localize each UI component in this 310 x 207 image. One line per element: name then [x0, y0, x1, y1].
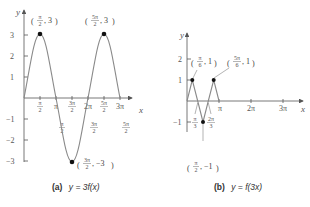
panel-b-y-label: y [179, 30, 184, 40]
panel-b-point-max-1 [190, 78, 194, 82]
panel-a-label-pi-2-3: ( π 2 , 3 ) [31, 14, 58, 27]
panel-b-xlow-pi-3: π 3 [192, 103, 198, 129]
svg-text:(: ( [191, 59, 194, 68]
panel-a-point-min [70, 160, 75, 165]
panel-a-xtick-3pi-2: 3π 2 [68, 100, 76, 113]
panel-a-y-label: y [15, 7, 20, 17]
panel-b: y x 2 1 −1 π 2π 3π π 3 2π [173, 30, 305, 192]
svg-text:3: 3 [194, 123, 197, 129]
panel-a-xlow-3pi-2: 3π 2 [90, 121, 98, 134]
svg-text:, −3: , −3 [92, 159, 105, 168]
svg-text:π: π [38, 100, 41, 106]
panel-b-leader-1 [193, 70, 197, 78]
svg-text:(: ( [85, 17, 88, 26]
panel-b-xtick-3pi: 3π [279, 104, 287, 113]
panel-b-y-ticks [187, 59, 191, 122]
panel-a-caption: (a) y = 3f(x) [52, 182, 100, 192]
svg-text:π: π [198, 55, 201, 61]
svg-text:3: 3 [210, 123, 213, 129]
panel-a-ytick-1: 1 [10, 73, 14, 82]
svg-text:2: 2 [86, 164, 89, 170]
svg-text:): ) [252, 59, 255, 68]
svg-text:π: π [38, 14, 41, 20]
svg-text:2: 2 [71, 107, 74, 113]
svg-text:, 1: , 1 [242, 57, 250, 66]
panel-a-point-max-1 [38, 32, 43, 37]
svg-text:π: π [194, 160, 197, 166]
svg-text:2π: 2π [208, 116, 214, 122]
panel-b-point-min [201, 120, 205, 124]
panel-a-xtick-pi-2: π 2 [37, 100, 43, 113]
panel-b-label-5pi-6-1: ( 5π 6 , 1 ) [227, 55, 255, 68]
panel-b-leader-2 [214, 68, 229, 78]
svg-text:3π: 3π [69, 100, 75, 106]
panel-b-point-max-2 [212, 78, 216, 82]
svg-text:(: ( [77, 161, 80, 170]
svg-text:2: 2 [195, 167, 198, 173]
svg-text:2: 2 [39, 107, 42, 113]
figure: y x 3 2 1 −1 −2 −3 π 2 [0, 0, 310, 207]
svg-text:5π: 5π [92, 14, 98, 20]
svg-text:2: 2 [94, 21, 97, 27]
svg-text:(: ( [227, 59, 230, 68]
svg-text:): ) [55, 17, 58, 26]
panel-b-xlow-2pi-3: 2π 3 [207, 103, 215, 129]
svg-text:): ) [216, 164, 219, 173]
panel-a-xtick-2pi: 2π [84, 102, 92, 111]
panel-a-xtick-5pi-2: 5π 2 [100, 100, 108, 113]
panel-a-label-5pi-2-3: ( 5π 2 , 3 ) [85, 14, 115, 27]
panel-b-xtick-pi: π [218, 104, 222, 113]
svg-text:π: π [193, 116, 196, 122]
svg-text:, 3: , 3 [44, 16, 52, 25]
panel-b-ytick-2: 2 [178, 55, 182, 64]
svg-text:2: 2 [93, 128, 96, 134]
svg-text:3π: 3π [91, 121, 97, 127]
svg-text:3π: 3π [84, 157, 90, 163]
svg-text:(: ( [187, 164, 190, 173]
panel-a-label-3pi-2-neg3: ( 3π 2 , −3 ) [77, 157, 114, 170]
svg-text:2: 2 [125, 128, 128, 134]
svg-text:, −1: , −1 [200, 162, 213, 171]
panel-b-caption: (b) y = f(3x) [214, 182, 262, 192]
panel-a-ytick-neg2: −2 [6, 136, 15, 145]
svg-text:(: ( [31, 17, 34, 26]
panel-a-xtick-3pi: 3π [116, 102, 124, 111]
svg-text:): ) [112, 17, 115, 26]
panel-a-x-label: x [138, 105, 143, 115]
svg-text:, 1: , 1 [204, 57, 212, 66]
panel-b-label-pi-2-neg1: ( π 2 , −1 ) [187, 160, 219, 173]
panel-a-ytick-neg3: −3 [6, 157, 15, 166]
panel-b-xtick-2pi: 2π [247, 104, 255, 113]
svg-text:): ) [214, 59, 217, 68]
panel-a-point-max-2 [102, 32, 107, 37]
panel-a: y x 3 2 1 −1 −2 −3 π 2 [6, 7, 143, 192]
svg-text:2: 2 [39, 21, 42, 27]
svg-text:6: 6 [236, 62, 239, 68]
panel-a-ytick-neg1: −1 [6, 115, 15, 124]
svg-text:5π: 5π [101, 100, 107, 106]
panel-b-ytick-1: 1 [178, 76, 182, 85]
panel-b-x-label: x [300, 104, 305, 114]
panel-a-ytick-3: 3 [10, 31, 14, 40]
svg-text:2: 2 [103, 107, 106, 113]
svg-text:5π: 5π [234, 55, 240, 61]
panel-b-ytick-neg1: −1 [173, 118, 182, 127]
panel-a-ytick-2: 2 [10, 52, 14, 61]
svg-text:5π: 5π [123, 121, 129, 127]
svg-text:, 3: , 3 [100, 16, 108, 25]
panel-a-xlow-5pi-2: 5π 2 [122, 121, 130, 134]
panel-b-label-pi-6-1: ( π 6 , 1 ) [191, 55, 217, 68]
svg-text:6: 6 [199, 62, 202, 68]
svg-text:): ) [111, 161, 114, 170]
